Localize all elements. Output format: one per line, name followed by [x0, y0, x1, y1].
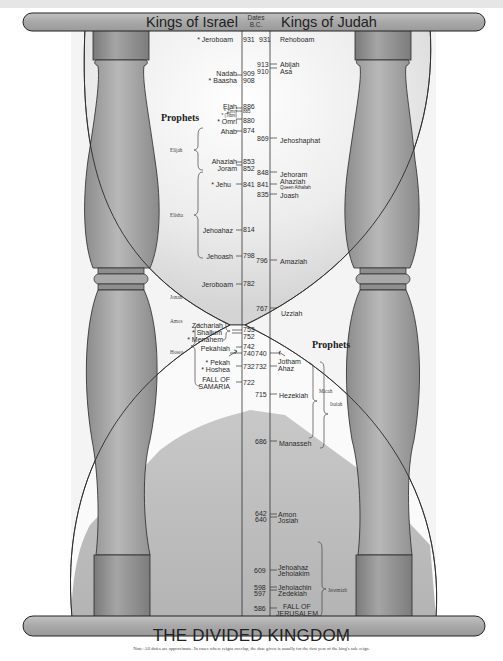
prophet-hosea: Hosea: [170, 349, 183, 355]
israel-king-jehu: * Jehu: [211, 181, 231, 188]
israel-king-hoshea: * Hoshea: [201, 366, 230, 373]
israel-king-jeroboam-ii: Jeroboam: [202, 281, 233, 288]
israel-king-ahaziah: Ahaziah: [212, 158, 237, 165]
judah-king-asa: Asa: [280, 68, 292, 75]
judah-king-josiah: Josiah: [278, 517, 298, 524]
date-740-judah: 740: [255, 350, 267, 357]
judah-king-jehoshaphat: Jehoshaphat: [280, 137, 320, 144]
dates-label: Dates: [240, 14, 272, 21]
prophet-elijah: Elijah: [170, 147, 182, 153]
fall-of-jerusalem-line2: JERUSALEM: [276, 610, 318, 617]
date-852: 852: [243, 165, 255, 172]
judah-queen-athaliah: Queen Athaliah: [280, 185, 311, 190]
prophet-jonah: Jonah: [170, 294, 182, 300]
date-609: 609: [254, 567, 266, 574]
israel-king-zachariah: Zachariah: [192, 322, 223, 329]
date-740-israel: 740: [243, 350, 255, 357]
date-841-israel: 841: [243, 181, 255, 188]
date-753: 753: [243, 326, 255, 333]
judah-king-hezekiah: Hezekiah: [279, 392, 308, 399]
footnote: Note: All dates are approximate. In case…: [0, 646, 503, 651]
date-908: 908: [243, 77, 255, 84]
israel-king-menahem: * Menahem: [187, 336, 223, 343]
divided-kingdom-title: THE DIVIDED KINGDOM: [0, 626, 503, 646]
fall-of-samaria-line2: SAMARIA: [198, 383, 230, 390]
date-848: 848: [257, 169, 269, 176]
israel-king-jeroboam: * Jeroboam: [197, 36, 233, 43]
date-767: 767: [256, 305, 268, 312]
israel-prophets-heading: Prophets: [161, 112, 199, 123]
bc-label: B.C.: [240, 21, 272, 28]
judah-king-ahaziah: Ahaziah: [280, 178, 305, 185]
israel-king-baasha: * Baasha: [209, 77, 237, 84]
date-841-judah: 841: [257, 181, 269, 188]
date-931-israel: 931: [243, 36, 255, 43]
judah-king-amaziah: Amaziah: [280, 258, 307, 265]
prophet-isaiah: Isaiah: [330, 401, 342, 407]
date-910: 910: [257, 68, 269, 75]
date-874: 874: [243, 127, 255, 134]
israel-king-pekahiah: Pekahiah: [201, 345, 230, 352]
date-715: 715: [255, 391, 267, 398]
date-782: 782: [243, 280, 255, 287]
prophet-amos: Amos: [170, 318, 182, 324]
judah-king-zedekiah: Zedekiah: [278, 590, 307, 597]
date-869: 869: [257, 135, 269, 142]
fall-of-samaria-line1: FALL OF: [202, 376, 230, 383]
judah-king-jotham: Jotham: [278, 358, 301, 365]
date-880: 880: [243, 117, 255, 124]
prophet-micah: Micah: [319, 388, 332, 394]
israel-king-ahab: Ahab: [221, 128, 237, 135]
dates-bc-heading: Dates B.C.: [240, 14, 272, 28]
judah-king-jehoiakim: Jehoiakim: [278, 570, 310, 577]
prophet-jeremiah: Jeremiah: [328, 587, 347, 593]
israel-king-joram: Joram: [218, 165, 237, 172]
judah-king-rehoboam: Rehoboam: [280, 36, 314, 43]
date-597: 597: [254, 590, 266, 597]
date-686: 686: [255, 438, 267, 445]
date-853: 853: [243, 158, 255, 165]
israel-king-jehoash: Jehoash: [207, 253, 233, 260]
date-732-israel: 732: [243, 363, 255, 370]
date-796: 796: [256, 257, 268, 264]
israel-king-jehoahaz: Jehoahaz: [203, 227, 233, 234]
date-931-judah: 931: [259, 36, 271, 43]
date-814: 814: [243, 226, 255, 233]
prophet-elisha: Elisha: [170, 212, 183, 218]
date-732-judah: 732: [255, 363, 267, 370]
date-909: 909: [243, 70, 255, 77]
fall-of-jerusalem-line1: FALL OF: [283, 603, 311, 610]
judah-king-abijah: Abijah: [280, 61, 299, 68]
judah-king-manasseh: Manasseh: [279, 440, 311, 447]
date-913: 913: [257, 61, 269, 68]
judah-king-ahaz: Ahaz: [278, 365, 294, 372]
judah-king-uzziah: Uzziah: [281, 310, 302, 317]
date-752: 752: [243, 333, 255, 340]
date-640: 640: [255, 516, 267, 523]
date-722: 722: [243, 379, 255, 386]
judah-king-joash: Joash: [280, 192, 299, 199]
date-798: 798: [243, 252, 255, 259]
israel-king-omri: * Omri: [217, 118, 237, 125]
date-885: 885: [243, 109, 251, 114]
date-835: 835: [257, 191, 269, 198]
kings-of-judah-heading: Kings of Judah: [281, 14, 377, 30]
israel-king-shallum: * Shallum: [192, 329, 222, 336]
kings-of-israel-heading: Kings of Israel: [146, 14, 238, 30]
judah-prophets-heading: Prophets: [312, 339, 350, 350]
israel-king-nadab: Nadab: [216, 70, 237, 77]
date-586: 586: [254, 605, 266, 612]
date-742: 742: [243, 343, 255, 350]
judah-king-jehoram: Jehoram: [280, 171, 307, 178]
israel-king-pekah: * Pekah: [205, 359, 230, 366]
